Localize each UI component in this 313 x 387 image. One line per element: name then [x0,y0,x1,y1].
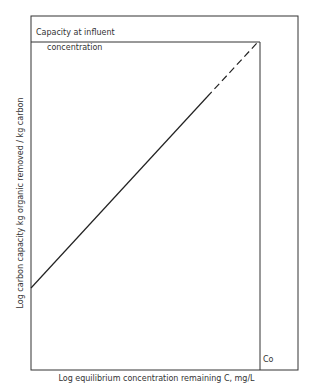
isotherm-diagram [0,0,313,387]
plot-frame [31,16,298,370]
isotherm-dashed-line [207,43,257,97]
capacity-annotation-line2: concentration [47,43,102,52]
co-annotation: Co [263,355,273,364]
x-axis-label: Log equilibrium concentration remaining … [0,374,313,383]
capacity-annotation-line1: Capacity at influent [36,28,115,37]
isotherm-solid-line [31,97,207,288]
y-axis-label: Log carbon capacity kg organic removed /… [16,98,25,309]
